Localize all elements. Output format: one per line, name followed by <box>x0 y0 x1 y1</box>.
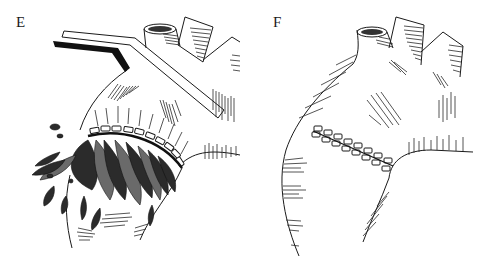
pledget-double-row-f <box>312 126 393 171</box>
vascular-clamp-icon <box>53 31 224 118</box>
aorta-outline-lower-left <box>66 175 72 248</box>
aorta-outline-right <box>389 150 473 178</box>
vessel-flap-icon <box>389 17 463 77</box>
aortic-stump-icon <box>144 24 180 48</box>
illustration-repaired-aorta <box>241 0 483 269</box>
aortic-stump-icon <box>357 27 393 48</box>
panel-f: F <box>241 0 483 269</box>
panel-e: E <box>0 0 241 269</box>
illustration-clamp-hemorrhage <box>0 0 241 269</box>
aorta-outline-upper <box>80 70 127 130</box>
vessel-flap-icon <box>178 17 240 71</box>
hemorrhage-spray-icon <box>32 124 176 230</box>
